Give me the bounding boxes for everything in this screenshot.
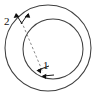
burn-1-label: 1 [43, 60, 49, 71]
inner-circular-orbit [23, 19, 83, 79]
burn-2-arrow-head-left [14, 13, 20, 18]
burn-1-arrow-head-lower [41, 74, 46, 79]
burn-2-label: 2 [4, 16, 10, 27]
orbital-transfer-figure: 2 1 [0, 0, 105, 97]
burn-1-arrow-head-upper [36, 68, 41, 73]
burn-2-arrow-head-right [25, 13, 31, 18]
orbit-diagram-svg [0, 0, 105, 97]
transfer-trajectory-dashed [22, 22, 44, 73]
